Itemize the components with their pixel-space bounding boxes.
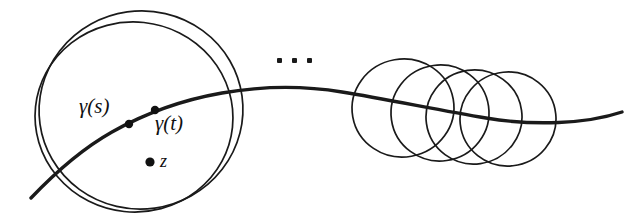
left-disk-group bbox=[26, 0, 256, 222]
left-disk-inner bbox=[26, 12, 243, 222]
left-disk-outer bbox=[26, 0, 256, 222]
z-point bbox=[145, 157, 154, 166]
figure-canvas: γ(s) γ(t) z bbox=[0, 0, 642, 223]
z-label: z bbox=[160, 152, 167, 170]
gamma-curve bbox=[31, 87, 622, 198]
ellipsis-icon bbox=[277, 56, 323, 68]
gamma-s-label: γ(s) bbox=[79, 96, 109, 117]
ellipsis-dot-1 bbox=[277, 58, 282, 63]
ellipsis-dot-3 bbox=[307, 58, 312, 63]
gamma-s-point bbox=[125, 120, 133, 128]
gamma-t-label: γ(t) bbox=[155, 113, 183, 134]
ellipsis-dot-2 bbox=[292, 58, 297, 63]
chain-disk-1 bbox=[344, 51, 461, 165]
